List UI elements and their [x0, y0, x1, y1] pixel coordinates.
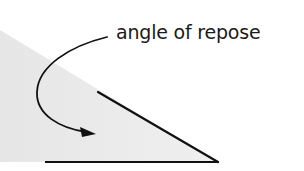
angle-of-repose-diagram: angle of repose: [0, 0, 304, 171]
angle-of-repose-label: angle of repose: [116, 20, 260, 44]
